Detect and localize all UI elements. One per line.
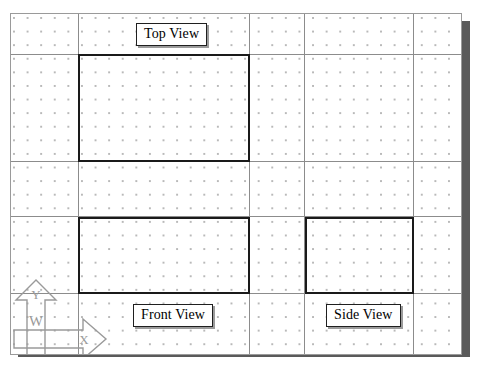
front-view-rectangle[interactable] <box>78 217 250 294</box>
y-axis-head-letter: Y <box>31 287 41 302</box>
x-axis-head-letter: X <box>79 332 89 347</box>
x-axis-indicator[interactable]: X <box>13 316 109 355</box>
major-gridline-vertical <box>304 14 305 354</box>
side-view-label[interactable]: Side View <box>326 304 401 327</box>
major-gridline-vertical <box>413 14 414 354</box>
drawing-sheet[interactable]: Top View Front View Side View Y W X <box>10 13 462 355</box>
side-view-rectangle[interactable] <box>305 217 414 294</box>
front-view-label[interactable]: Front View <box>133 304 213 327</box>
top-view-rectangle[interactable] <box>78 54 250 162</box>
drawing-canvas[interactable]: Top View Front View Side View Y W X <box>0 0 481 374</box>
top-view-label[interactable]: Top View <box>136 23 207 46</box>
